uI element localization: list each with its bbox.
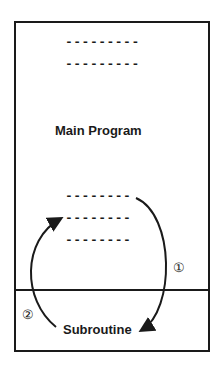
subroutine-label: Subroutine xyxy=(63,322,132,337)
arrow-1-marker: ① xyxy=(173,260,185,275)
return-arrow xyxy=(31,219,60,327)
arrow-2-marker: ② xyxy=(22,307,34,322)
call-arrow xyxy=(136,198,166,330)
